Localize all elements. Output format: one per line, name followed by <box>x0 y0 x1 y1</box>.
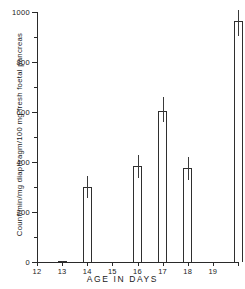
bar-day-14 <box>83 187 92 262</box>
y-tick-200 <box>32 212 37 213</box>
x-tick-19 <box>213 262 214 266</box>
x-tick-12 <box>37 262 38 266</box>
x-tick-16 <box>138 262 139 266</box>
error-bar-day-14 <box>87 176 88 198</box>
bar-day-18 <box>183 168 192 263</box>
y-tick-minor-900 <box>34 37 37 38</box>
error-bar-day-16 <box>138 155 139 178</box>
error-bar-day-18 <box>188 157 189 180</box>
error-bar-day-17 <box>163 97 164 122</box>
bar-day-16 <box>133 166 142 262</box>
error-bar-day-13 <box>62 261 63 262</box>
bar-chart-figure: 02004006008001000 1213141516171819 AGE I… <box>0 0 245 289</box>
x-tick-15 <box>112 262 113 266</box>
bar-day-17 <box>158 111 167 262</box>
y-tick-minor-300 <box>34 187 37 188</box>
x-tick-17 <box>163 262 164 266</box>
y-tick-400 <box>32 162 37 163</box>
y-axis-title: Count/min/mg diaphragm/100 mg fresh foet… <box>15 10 24 260</box>
y-tick-minor-500 <box>34 137 37 138</box>
x-tick-20 <box>238 262 239 266</box>
bar-day-20 <box>234 21 243 262</box>
y-tick-600 <box>32 112 37 113</box>
error-bar-day-20 <box>238 10 239 36</box>
y-tick-minor-100 <box>34 237 37 238</box>
x-tick-14 <box>87 262 88 266</box>
y-axis-line <box>37 12 38 263</box>
x-tick-13 <box>62 262 63 266</box>
x-tick-18 <box>188 262 189 266</box>
x-axis-title: AGE IN DAYS <box>0 274 245 284</box>
y-tick-minor-700 <box>34 87 37 88</box>
y-tick-800 <box>32 62 37 63</box>
y-tick-1000 <box>32 12 37 13</box>
